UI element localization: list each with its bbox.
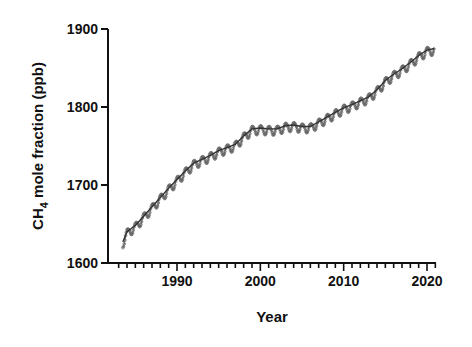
- x-axis-title: Year: [256, 308, 288, 325]
- y-axis: 1600170018001900: [67, 21, 108, 271]
- ch4-chart: 1600170018001900 1990200020102020 Year C…: [0, 0, 472, 347]
- y-tick-label: 1600: [67, 255, 98, 271]
- y-axis-title-rest: mole fraction (ppb): [29, 62, 46, 202]
- y-tick-label: 1700: [67, 177, 98, 193]
- y-axis-title-main: CH: [29, 208, 46, 230]
- x-tick-label: 2020: [411, 273, 442, 289]
- x-tick-label: 2010: [328, 273, 359, 289]
- monthly-series: [122, 46, 436, 249]
- y-tick-label: 1900: [67, 21, 98, 37]
- y-axis-title: CH4 mole fraction (ppb): [29, 62, 50, 230]
- x-tick-label: 2000: [245, 273, 276, 289]
- y-tick-label: 1800: [67, 99, 98, 115]
- x-tick-label: 1990: [161, 273, 192, 289]
- x-axis: 1990200020102020: [107, 263, 443, 289]
